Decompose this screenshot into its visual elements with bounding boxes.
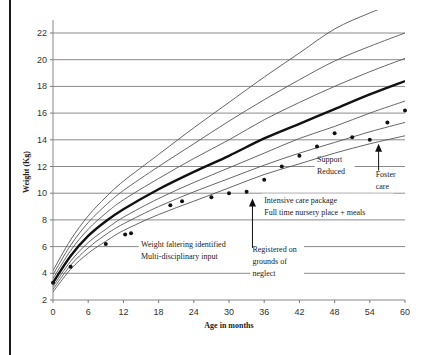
- data-point: [333, 131, 337, 135]
- x-tick-label: 24: [189, 307, 199, 317]
- arrow-up-icon: [375, 144, 382, 152]
- data-point: [51, 281, 55, 285]
- annotation-text: Registered on: [252, 245, 296, 254]
- x-axis-title: Age in months: [204, 321, 253, 330]
- annotation-text: neglect: [252, 269, 276, 278]
- annotation-text: Full time nursery place + meals: [264, 208, 365, 217]
- data-point: [104, 242, 108, 246]
- data-point: [315, 144, 319, 148]
- annotation-text: Foster: [376, 170, 396, 179]
- data-point: [123, 233, 127, 237]
- x-tick-label: 0: [50, 307, 55, 317]
- x-tick-label: 48: [330, 307, 340, 317]
- y-tick-label: 4: [42, 268, 47, 278]
- x-tick-label: 54: [365, 307, 375, 317]
- x-tick-label: 42: [294, 307, 304, 317]
- annotation-text: Intensive care package: [264, 196, 337, 205]
- y-tick-label: 12: [37, 162, 47, 172]
- annotation-text: grounds of: [252, 257, 287, 266]
- data-point: [262, 178, 266, 182]
- data-point: [227, 191, 231, 195]
- y-tick-label: 14: [37, 135, 47, 145]
- growth-chart: 24681012141618202206121824303642485460 W…: [0, 0, 433, 355]
- y-tick-label: 22: [37, 28, 47, 38]
- annotation-text: Reduced: [317, 167, 345, 176]
- data-point: [385, 120, 389, 124]
- x-tick-label: 18: [154, 307, 164, 317]
- y-tick-label: 2: [42, 295, 47, 305]
- data-point: [209, 195, 213, 199]
- data-point: [280, 165, 284, 169]
- data-point: [297, 154, 301, 158]
- data-point: [403, 108, 407, 112]
- annotation-text: care: [376, 182, 390, 191]
- arrow-up-icon: [249, 199, 256, 207]
- y-tick-label: 8: [42, 215, 47, 225]
- data-point: [180, 199, 184, 203]
- y-tick-label: 18: [37, 81, 47, 91]
- data-point: [168, 203, 172, 207]
- data-point: [368, 138, 372, 142]
- x-tick-label: 60: [400, 307, 410, 317]
- x-tick-label: 30: [224, 307, 234, 317]
- y-tick-label: 16: [37, 108, 47, 118]
- y-tick-label: 6: [42, 242, 47, 252]
- annotation-text: Support: [317, 155, 343, 164]
- y-tick-label: 20: [37, 55, 47, 65]
- annotation-text: Multi-disciplinary input: [141, 252, 218, 261]
- x-tick-label: 6: [86, 307, 91, 317]
- data-point: [245, 190, 249, 194]
- data-point: [69, 265, 73, 269]
- data-point: [129, 231, 133, 235]
- x-tick-label: 12: [118, 307, 128, 317]
- x-tick-label: 36: [259, 307, 269, 317]
- data-point: [350, 135, 354, 139]
- y-axis-title: Weight (Kg): [22, 151, 31, 193]
- y-tick-label: 10: [37, 188, 47, 198]
- annotation-text: Weight faltering identified: [141, 240, 226, 249]
